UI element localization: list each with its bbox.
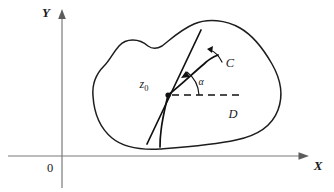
axes-group xyxy=(8,9,309,188)
point-z0-marker xyxy=(165,92,170,97)
region-d-outline xyxy=(93,21,281,150)
tangent-line xyxy=(147,30,201,144)
figure-canvas: Y X 0 z0 C D α xyxy=(0,0,334,192)
x-axis-arrowhead xyxy=(299,152,310,160)
origin-label: 0 xyxy=(47,161,53,175)
y-axis-label: Y xyxy=(42,5,51,20)
point-z0-label: z0 xyxy=(139,77,149,93)
curve-c-upper-branch xyxy=(168,55,218,95)
x-axis-label: X xyxy=(313,158,323,173)
y-axis-arrowhead xyxy=(58,9,66,19)
angle-alpha-label: α xyxy=(198,76,204,87)
point-z0-subscript: 0 xyxy=(144,83,148,93)
curve-direction-arrowhead xyxy=(181,71,190,78)
region-d-label: D xyxy=(227,107,237,121)
curve-c-label: C xyxy=(226,56,235,70)
curve-c-lower-branch xyxy=(160,95,168,147)
diagram-svg: Y X 0 z0 C D α xyxy=(0,0,334,192)
curve-c-leader-arrowhead xyxy=(207,46,213,53)
